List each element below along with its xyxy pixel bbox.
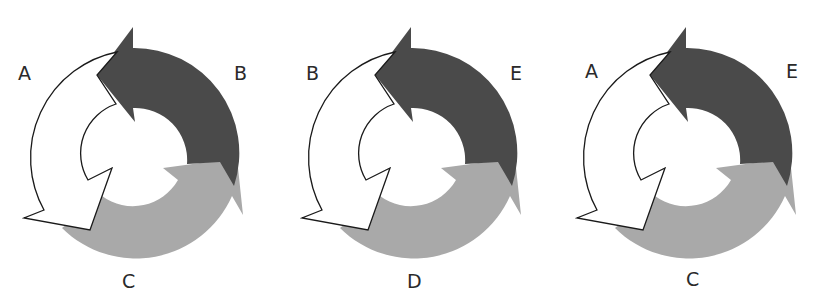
cycle-arrows-graphic [278,0,551,308]
node-label-right: E [510,64,522,83]
node-label-bottom: C [122,272,135,291]
node-label-bottom: C [686,270,699,289]
node-label-left: B [306,64,319,83]
node-label-right: E [786,62,798,81]
node-label-right: B [234,64,247,83]
node-label-left: A [18,64,31,83]
cycle-arrows-graphic [0,0,273,308]
node-label-left: A [585,62,598,81]
cycle-panel-1: A B C [0,0,273,308]
node-label-bottom: D [407,272,422,291]
cycle-arrows-graphic [553,0,819,308]
cycle-panel-2: B E D [278,0,551,308]
cycle-panel-3: A E C [553,0,819,308]
